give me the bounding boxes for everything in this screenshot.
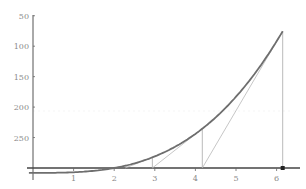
function-curve xyxy=(29,31,283,173)
y-tick-label: 50 xyxy=(19,12,29,21)
y-tick-label: 150 xyxy=(14,73,29,82)
x-tick-label: 4 xyxy=(193,174,198,183)
x-axis: 123456 xyxy=(27,168,300,183)
newton-tangent-lines xyxy=(125,31,283,168)
x-tick-label: 3 xyxy=(152,174,157,183)
start-point-marker xyxy=(281,166,285,170)
x-tick-label: 5 xyxy=(233,174,238,183)
x-tick-label: 1 xyxy=(71,174,76,183)
y-tick-label: 200 xyxy=(14,103,29,112)
x-tick-label: 6 xyxy=(274,174,279,183)
newton-method-chart: 25020015010050 123456 xyxy=(0,0,306,189)
y-tick-label: 100 xyxy=(14,42,29,51)
y-tick-label: 250 xyxy=(14,134,29,143)
y-axis: 25020015010050 xyxy=(14,12,35,180)
x-tick-label: 2 xyxy=(112,174,117,183)
